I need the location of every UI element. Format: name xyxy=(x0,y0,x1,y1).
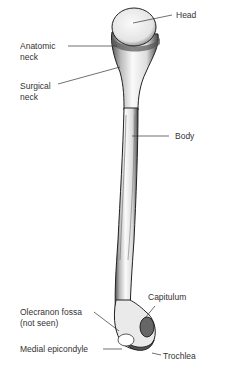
label-anatomic-neck-line1: Anatomic xyxy=(20,41,55,51)
humeral-head xyxy=(112,8,156,46)
label-surgical-neck-line1: Surgical xyxy=(20,81,51,91)
label-medial-epicondyle: Medial epicondyle xyxy=(20,344,88,354)
label-capitulum: Capitulum xyxy=(148,292,186,302)
label-surgical-neck-line2: neck xyxy=(20,92,38,102)
label-trochlea: Trochlea xyxy=(163,351,196,361)
capitulum xyxy=(140,317,154,337)
label-head: Head xyxy=(176,10,196,20)
label-body: Body xyxy=(175,131,194,141)
label-olecranon-fossa-line1: Olecranon fossa xyxy=(20,307,82,317)
label-olecranon-fossa-line2: (not seen) xyxy=(20,318,58,328)
label-anatomic-neck-line2: neck xyxy=(20,52,38,62)
